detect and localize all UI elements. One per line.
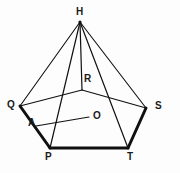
vertex-label-H: H: [76, 7, 83, 17]
vertex-label-T: T: [127, 152, 133, 162]
vertex-label-R: R: [84, 74, 91, 84]
vertex-label-S: S: [155, 101, 162, 111]
vertex-label-P: P: [45, 152, 52, 162]
pyramid-diagram-svg: [0, 0, 180, 173]
vertex-label-Q: Q: [7, 100, 15, 110]
geometry-figure: H R Q S O A P T: [0, 0, 180, 173]
apex-point-H: [78, 20, 81, 23]
vertex-label-A: A: [28, 118, 35, 128]
vertex-label-O: O: [93, 111, 101, 121]
